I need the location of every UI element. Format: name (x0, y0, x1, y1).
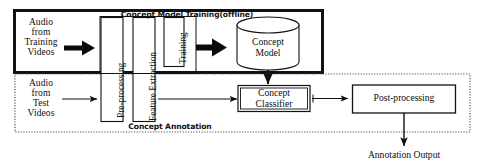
thick-right-arrow-icon-model (196, 39, 227, 57)
test-input-label: Audio from Test Videos (18, 79, 64, 119)
diagram-canvas: Concept Model Training(offline) Concept … (0, 0, 483, 167)
diagram-vector-layer (0, 0, 483, 167)
feature-extraction-label: Feature Extraction (148, 52, 158, 121)
preprocessing-label: Pre-processing (116, 63, 126, 118)
annotation-output-label: Annotation Output (347, 150, 461, 160)
training-section-caption: Concept Model Training(offline) (107, 11, 267, 19)
training-input-label: Audio from Training Videos (18, 18, 64, 58)
concept-model-label: Concept Model (238, 37, 298, 58)
post-processing-label: Post-processing (356, 93, 452, 104)
training-stage-label: Training (178, 32, 188, 64)
annotation-section-caption: Concept Annotation (110, 123, 230, 131)
concept-classifier-label: Concept Classifier (244, 88, 304, 109)
thick-right-arrow-icon-input (64, 41, 95, 56)
